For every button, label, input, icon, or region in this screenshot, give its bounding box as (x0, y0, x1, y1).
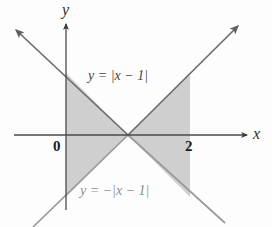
upper-curve-label: y = |x − 1| (88, 69, 148, 83)
y-axis-label: y (62, 2, 69, 18)
x-tick-label-0: 0 (53, 139, 61, 154)
x-tick-label-2: 2 (185, 139, 193, 154)
lower-curve-label: y = −|x − 1| (80, 184, 149, 198)
x-axis-label: x (253, 126, 260, 142)
math-figure: y x 0 2 y = |x − 1| y = −|x − 1| (0, 0, 272, 227)
lower-curve (33, 135, 225, 227)
